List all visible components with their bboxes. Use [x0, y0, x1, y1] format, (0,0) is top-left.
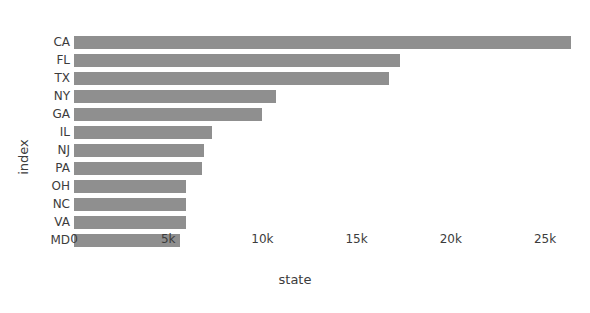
bar-row — [74, 159, 571, 177]
bar-row — [74, 87, 571, 105]
x-tick-label-0: 0 — [70, 232, 78, 246]
y-tick-label-tx: TX — [10, 69, 70, 87]
bar-ga[interactable] — [74, 108, 262, 121]
bar-oh[interactable] — [74, 180, 186, 193]
y-tick-label-nc: NC — [10, 195, 70, 213]
bar-fl[interactable] — [74, 54, 400, 67]
plot-area — [74, 26, 571, 252]
x-tick-label-10k: 10k — [251, 232, 273, 246]
bar-il[interactable] — [74, 126, 212, 139]
bar-row — [74, 105, 571, 123]
bar-row — [74, 177, 571, 195]
y-tick-label-va: VA — [10, 213, 70, 231]
x-tick-label-5k: 5k — [161, 232, 176, 246]
bar-row — [74, 123, 571, 141]
bar-ca[interactable] — [74, 36, 571, 49]
bar-row — [74, 33, 571, 51]
bar-row — [74, 213, 571, 231]
bar-pa[interactable] — [74, 162, 202, 175]
x-tick-label-15k: 15k — [345, 232, 367, 246]
y-tick-label-il: IL — [10, 123, 70, 141]
x-tick-label-25k: 25k — [534, 232, 556, 246]
bar-row — [74, 69, 571, 87]
x-axis-label: state — [0, 272, 590, 287]
y-tick-label-oh: OH — [10, 177, 70, 195]
bar-ny[interactable] — [74, 90, 276, 103]
bar-nc[interactable] — [74, 198, 186, 211]
y-tick-label-nj: NJ — [10, 141, 70, 159]
y-tick-label-ca: CA — [10, 33, 70, 51]
y-tick-label-ga: GA — [10, 105, 70, 123]
bar-chart-figure: index state CAFLTXNYGAILNJPAOHNCVAMD05k1… — [0, 0, 590, 313]
bar-row — [74, 231, 571, 249]
y-tick-label-md: MD — [10, 231, 70, 249]
bar-row — [74, 141, 571, 159]
x-tick-label-20k: 20k — [440, 232, 462, 246]
bar-row — [74, 51, 571, 69]
bar-row — [74, 195, 571, 213]
bar-va[interactable] — [74, 216, 186, 229]
bar-nj[interactable] — [74, 144, 204, 157]
y-tick-label-fl: FL — [10, 51, 70, 69]
y-tick-label-ny: NY — [10, 87, 70, 105]
bar-tx[interactable] — [74, 72, 389, 85]
y-tick-label-pa: PA — [10, 159, 70, 177]
